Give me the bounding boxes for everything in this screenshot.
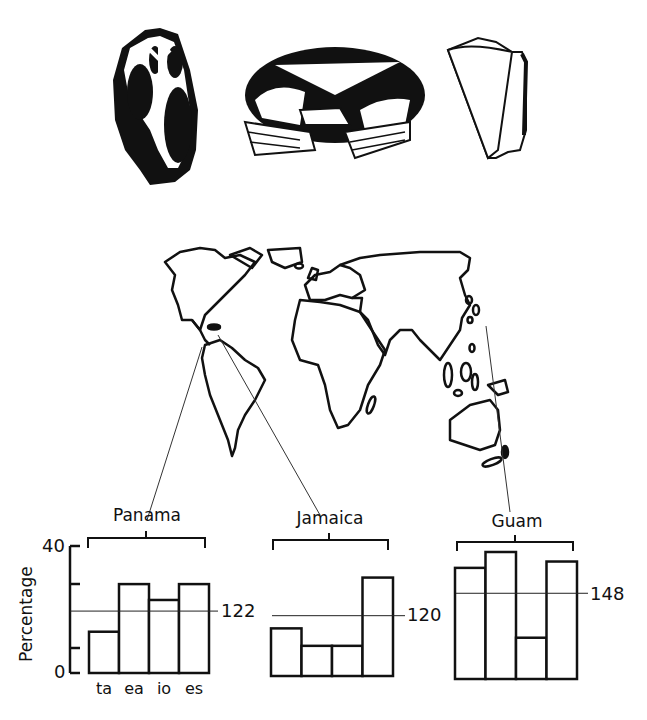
- bar-io: [516, 638, 547, 679]
- africa-outline: [292, 300, 385, 428]
- bar-ta: [271, 628, 302, 676]
- bar-ea: [486, 552, 517, 679]
- bar-es: [179, 584, 209, 673]
- panel-title-jamaica: Jamaica: [297, 508, 364, 528]
- world-map: [165, 248, 508, 468]
- shell-cross-section-illustration: [113, 28, 198, 185]
- x-tick-es: es: [185, 679, 203, 698]
- y-axis: [70, 546, 80, 673]
- figure-canvas: [0, 0, 647, 720]
- south-america-outline: [202, 340, 265, 456]
- x-tick-ta: ta: [96, 679, 112, 698]
- bar-ea: [119, 584, 149, 673]
- panel-brackets: [88, 531, 573, 551]
- bar-ea: [302, 646, 333, 676]
- europe-outline: [305, 265, 365, 300]
- y-axis-label: Percentage: [16, 566, 36, 662]
- jamaica-marker: [208, 325, 220, 330]
- bar-io: [332, 646, 363, 676]
- y-tick-top: 40: [42, 535, 65, 556]
- bar-es: [547, 562, 578, 679]
- crab-illustration: [245, 47, 425, 158]
- x-tick-io: io: [157, 679, 171, 698]
- australia-outline: [450, 400, 500, 450]
- bar-es: [363, 578, 394, 676]
- cone-shell-illustration: [448, 38, 526, 158]
- asia-outline: [340, 252, 470, 360]
- mean-label-jamaica: 120: [407, 604, 441, 625]
- panel-title-guam: Guam: [492, 511, 543, 531]
- mean-label-panama: 122: [221, 600, 255, 621]
- north-america-outline: [165, 248, 255, 330]
- x-tick-ea: ea: [124, 679, 144, 698]
- bar-panel-jamaica: [271, 578, 405, 676]
- mean-label-guam: 148: [590, 583, 624, 604]
- bar-ta: [89, 632, 119, 673]
- panel-title-panama: Panama: [113, 505, 181, 525]
- bar-ta: [455, 568, 486, 679]
- y-tick-bottom: 0: [54, 661, 65, 682]
- bar-panel-guam: [455, 552, 588, 679]
- bar-panels: [70, 552, 588, 679]
- bar-panel-panama: [70, 584, 218, 673]
